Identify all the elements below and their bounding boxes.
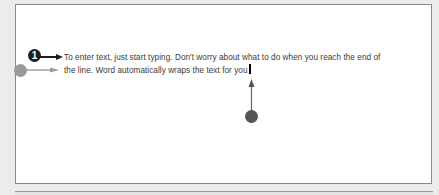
wrap-arrow-head-icon [50, 68, 59, 73]
wrap-indicator-dot-icon [14, 64, 27, 77]
cursor-arrow-head-icon [249, 79, 255, 87]
status-bar [15, 191, 433, 195]
step-1-badge: 1 [28, 49, 41, 62]
callout-arrows [0, 0, 439, 195]
cursor-indicator-dot-icon [245, 110, 258, 123]
step-arrow-head-icon [56, 54, 63, 60]
